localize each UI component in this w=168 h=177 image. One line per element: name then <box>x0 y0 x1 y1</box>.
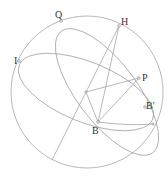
point-right <box>152 123 154 125</box>
sphere-diagram: Q H I P B' B <box>0 0 168 177</box>
line-B-inner <box>86 92 98 122</box>
point-H <box>118 25 121 28</box>
label-I: I <box>14 55 17 66</box>
great-circle-Q <box>37 13 168 171</box>
line-inner-P <box>86 78 139 92</box>
label-B: B <box>92 125 99 136</box>
point-B <box>97 121 100 124</box>
point-I <box>18 60 21 63</box>
line-B-H <box>98 26 119 122</box>
label-Bprime: B' <box>146 100 155 111</box>
point-P <box>138 77 141 80</box>
label-H: H <box>121 16 128 27</box>
arc-B-right <box>98 122 153 125</box>
label-P: P <box>142 72 148 83</box>
label-Q: Q <box>55 9 63 20</box>
line-B-P <box>98 78 139 122</box>
point-inner <box>85 91 87 93</box>
point-Q <box>60 20 63 23</box>
